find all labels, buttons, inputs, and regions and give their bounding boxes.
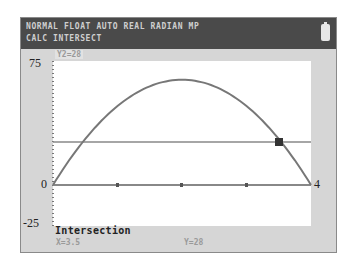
x-max-label: 4 [314, 177, 320, 192]
intersection-cursor-icon [275, 138, 283, 146]
y-zero-label: 0 [41, 177, 47, 192]
calculator-screen: NORMAL FLOAT AUTO REAL RADIAN MP CALC IN… [20, 17, 337, 253]
intersection-y-value: Y=28 [184, 238, 203, 247]
y-min-label: -25 [23, 216, 39, 231]
y-max-label: 75 [29, 56, 41, 71]
function-label: Y2=28 [55, 50, 83, 59]
intersection-title: Intersection [55, 225, 131, 236]
parabola-y1 [53, 80, 311, 185]
intersection-x-value: X=3.5 [56, 238, 80, 247]
